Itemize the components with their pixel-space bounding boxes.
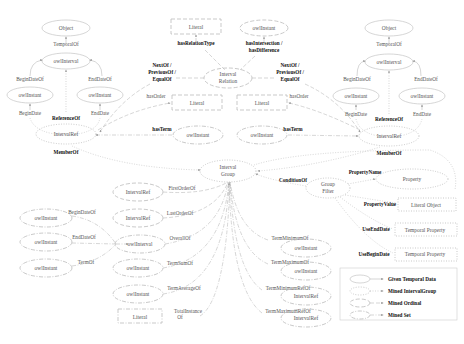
property-label: Property	[403, 176, 422, 182]
group-filter-label-1: Group	[321, 181, 335, 187]
termsum-instant-label: owlInstant	[127, 265, 150, 271]
edge-end-date-of-left: EndDateOf	[88, 76, 112, 82]
left-intervalref-label: IntervalRef	[54, 131, 79, 137]
edge-next-of-left-1: NextOf /	[153, 62, 172, 68]
edge-has-intersection: hasIntersection /	[246, 40, 283, 46]
right-intervalref-label: IntervalRef	[377, 133, 402, 139]
edge-use-begin-date: UseBeginDate	[358, 251, 390, 257]
edge-previous-of-right: PreviousOf /	[276, 69, 304, 75]
legend: Given Temporal Data Mined IntervalGroup …	[340, 268, 457, 320]
edge-total-instance-of: Of	[177, 314, 183, 320]
interval-group-label-1: Interval	[220, 164, 237, 170]
edge-overall-of: OverallOf	[169, 235, 190, 241]
edge-begin-date-left: BeginDate	[19, 110, 42, 116]
edge-property-name: PropertyName	[349, 169, 382, 175]
termminref-intervalref-label: IntervalRef	[294, 293, 319, 299]
set-instant-3-label: owlInstant	[35, 265, 58, 271]
left-temporal-cluster: Object TemporalOf owlInterval BeginDateO…	[7, 20, 200, 170]
edge-term-minimum-of: TermMinimumOf	[271, 235, 308, 241]
edge-condition-of: ConditionOf	[279, 177, 307, 183]
edge-set-begin-date-of: BeginDateOf	[68, 209, 96, 215]
edge-last-order-of: LastOrderOf	[167, 210, 194, 216]
edge-previous-of-left: PreviousOf /	[148, 69, 176, 75]
order-literal-left-label: Literal	[190, 100, 205, 106]
relation-literal-label: Literal	[189, 24, 204, 30]
last-intervalref-label: IntervalRef	[126, 215, 151, 221]
right-temporal-cluster: Object TemporalOf owlInterval BeginDateO…	[258, 20, 445, 171]
legend-ordinal-label: Mined Ordinal	[388, 300, 422, 306]
total-literal-label: Literal	[133, 314, 148, 320]
edge-next-of-right-1: NextOf /	[281, 62, 300, 68]
edge-equal-of-right: EqualOf	[280, 76, 299, 82]
right-begin-instant-label: owlInstant	[345, 93, 368, 99]
edge-equal-of-left: EqualOf	[152, 76, 171, 82]
edge-set-term-of: TermOf	[78, 259, 95, 265]
temporal-property-1-label: Temporal Property	[405, 227, 446, 233]
edge-reference-of-left: ReferenceOf	[52, 115, 80, 121]
interval-relation-label-2: Relation	[219, 78, 238, 84]
set-instant-2-label: owlInstant	[35, 239, 58, 245]
edge-temporal-of-right: TemporalOf	[376, 41, 402, 47]
left-interval-label: owlInterval	[54, 58, 79, 64]
edge-has-term-right: hasTerm	[283, 126, 303, 132]
interval-relation-cluster: Literal hasRelationType owlInstant hasIn…	[96, 19, 360, 144]
right-object-label: Object	[382, 25, 397, 31]
edge-reference-of-right: ReferenceOf	[375, 116, 403, 122]
left-begin-instant-label: owlInstant	[19, 92, 42, 98]
edge-begin-date-of-left: BeginDateOf	[16, 76, 44, 82]
relation-instant-label: owlInstant	[253, 25, 276, 31]
first-intervalref-label: IntervalRef	[126, 189, 151, 195]
overall-interval-label: owlInterval	[128, 241, 153, 247]
interval-relation-label-1: Interval	[220, 71, 237, 77]
literal-object-label: Literal Object	[411, 202, 442, 208]
edge-has-relation-type: hasRelationType	[177, 40, 215, 46]
legend-group-label: Mined IntervalGroup	[388, 288, 436, 294]
edge-end-date-right: EndDate	[413, 111, 432, 117]
edge-begin-date-of-right: BeginDateOf	[343, 76, 371, 82]
order-literal-right-label: Literal	[255, 100, 270, 106]
legend-set-label: Mined Set	[388, 312, 411, 318]
edge-has-difference: hasDifference	[249, 47, 280, 53]
temporal-property-2-label: Temporal Property	[405, 251, 446, 257]
termavg-instant-label: owlInstant	[127, 291, 150, 297]
termmaxref-intervalref-label: IntervalRef	[294, 315, 319, 321]
termmin-instant-label: owlInstant	[295, 245, 318, 251]
edge-end-date-of-right: EndDateOf	[414, 76, 438, 82]
interval-group-label-2: Group	[221, 171, 235, 177]
edge-member-of-left: MemberOf	[54, 149, 79, 155]
edge-first-order-of: FirstOrderOf	[168, 185, 195, 191]
edge-end-date-left: EndDate	[91, 110, 110, 116]
right-interval-label: owlInterval	[377, 59, 402, 65]
right-end-instant-label: owlInstant	[411, 93, 434, 99]
group-filter-label-2: Filter	[322, 188, 334, 194]
edge-term-average-of: TermAverageOf	[167, 285, 201, 291]
aggregate-cluster: IntervalRef FirstOrderOf IntervalRef Las…	[113, 182, 331, 327]
edge-set-end-date-of: EndDateOf	[72, 234, 96, 240]
legend-given-label: Given Temporal Data	[388, 276, 436, 282]
termmax-instant-label: owlInstant	[295, 268, 318, 274]
edge-has-order-left: hasOrder	[146, 93, 165, 99]
edge-has-term-left: hasTerm	[152, 126, 172, 132]
term-instant-right-label: owlInstant	[251, 132, 274, 138]
edge-property-value: PropertyValue	[364, 201, 397, 207]
term-instant-left-label: owlInstant	[187, 132, 210, 138]
left-object-label: Object	[59, 25, 74, 31]
temporal-ontology-diagram: Object TemporalOf owlInterval BeginDateO…	[0, 0, 464, 344]
set-instant-1-label: owlInstant	[35, 215, 58, 221]
set-member-cluster: owlInstant owlInstant owlInstant BeginDa…	[20, 209, 128, 277]
left-end-instant-label: owlInstant	[89, 92, 112, 98]
edge-temporal-of-left: TemporalOf	[53, 41, 79, 47]
edge-use-end-date: UseEndDate	[362, 226, 390, 232]
edge-has-order-right: hasOrder	[289, 93, 308, 99]
